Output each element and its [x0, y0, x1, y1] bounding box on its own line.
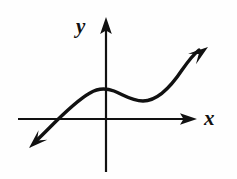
y-axis-label: y: [76, 16, 85, 37]
graph-figure: y x: [0, 0, 237, 179]
x-axis-label: x: [204, 108, 215, 129]
function-curve: [36, 50, 199, 141]
coordinate-graph-svg: [0, 0, 237, 179]
